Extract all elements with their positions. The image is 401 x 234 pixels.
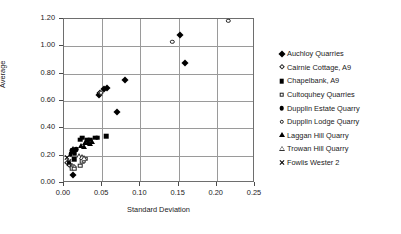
x-tick-mark (216, 182, 217, 186)
legend-item-chapelbank-a9[interactable]: Chapelbank, A9 (276, 74, 398, 88)
y-tick-mark (59, 73, 63, 74)
y-tick-mark (59, 127, 63, 128)
x-tick-mark (254, 182, 255, 186)
gridline-horizontal (64, 101, 253, 102)
x-tick-label: 0.25 (237, 188, 271, 197)
legend-marker-glyph (278, 64, 284, 70)
legend-item-label: Auchloy Quarries (287, 48, 344, 59)
gridline-vertical (217, 19, 218, 181)
legend-marker-glyph (279, 132, 285, 137)
legend-item-trowan-hill-quarry[interactable]: Trowan Hill Quarry (276, 142, 398, 156)
legend-item-cairnie-cottage-a9[interactable]: Cairnie Cottage, A9 (276, 61, 398, 75)
legend-item-label: Dupplin Lodge Quarry (287, 116, 359, 127)
data-point (70, 172, 77, 179)
gridline-vertical (102, 19, 103, 181)
data-point (226, 18, 230, 22)
gridline-horizontal (64, 74, 253, 75)
y-tick-mark (59, 18, 63, 19)
data-point (78, 163, 83, 168)
legend-marker-glyph (279, 92, 284, 97)
legend-item-dupplin-lodge-quarry[interactable]: Dupplin Lodge Quarry (276, 115, 398, 129)
x-tick-label: 0.15 (161, 188, 195, 197)
scatter-chart-figure: Average Standard Deviation Auchloy Quarr… (0, 0, 401, 234)
x-tick-label: 0.00 (46, 188, 80, 197)
legend-item-laggan-hill-quarry[interactable]: Laggan Hill Quarry (276, 129, 398, 143)
plot-area (63, 18, 254, 182)
legend-item-label: Cairnie Cottage, A9 (287, 62, 351, 73)
legend-item-fowlis-wester-2[interactable]: Fowlis Wester 2 (276, 156, 398, 170)
legend-marker-icon (276, 143, 287, 154)
legend-marker-icon (276, 89, 287, 100)
y-tick-label: 1.00 (21, 40, 55, 49)
legend-item-label: Fowlis Wester 2 (287, 157, 339, 168)
legend-marker-icon (276, 130, 287, 141)
legend-marker-icon (276, 48, 287, 59)
legend-item-label: Cultoquhey Quarries (287, 89, 355, 100)
legend-marker-glyph (279, 79, 284, 84)
legend-item-dupplin-estate-quarry[interactable]: Dupplin Estate Quarry (276, 101, 398, 115)
data-point (170, 40, 174, 44)
data-point (182, 59, 189, 66)
data-point (81, 155, 87, 160)
x-tick-label: 0.05 (84, 188, 118, 197)
legend-item-label: Laggan Hill Quarry (287, 130, 349, 141)
x-axis-title: Standard Deviation (63, 205, 254, 214)
data-point (95, 136, 100, 141)
gridline-horizontal (64, 156, 253, 157)
legend-marker-icon (276, 62, 287, 73)
x-tick-label: 0.10 (122, 188, 156, 197)
y-axis-title: Average (0, 61, 7, 88)
legend-item-label: Trowan Hill Quarry (287, 143, 348, 154)
legend-marker-glyph (279, 120, 283, 124)
y-tick-label: 0.60 (21, 95, 55, 104)
legend-marker-icon (276, 116, 287, 127)
gridline-horizontal (64, 46, 253, 47)
x-tick-mark (63, 182, 64, 186)
data-point (114, 108, 121, 115)
data-point (89, 139, 95, 144)
legend-marker-glyph (279, 160, 285, 166)
y-tick-label: 0.40 (21, 122, 55, 131)
y-tick-mark (59, 100, 63, 101)
data-point (66, 160, 72, 166)
y-tick-mark (59, 45, 63, 46)
legend-item-label: Dupplin Estate Quarry (287, 103, 360, 114)
legend-marker-icon (276, 103, 287, 114)
y-tick-label: 0.20 (21, 150, 55, 159)
x-tick-mark (178, 182, 179, 186)
data-point (72, 147, 78, 152)
x-tick-label: 0.20 (199, 188, 233, 197)
gridline-vertical (179, 19, 180, 181)
data-point (72, 166, 77, 171)
legend-marker-glyph (278, 50, 285, 57)
legend-marker-glyph (279, 106, 284, 111)
legend-marker-icon (276, 75, 287, 86)
y-tick-label: 1.20 (21, 13, 55, 22)
legend-marker-glyph (279, 146, 285, 151)
legend-item-cultoquhey-quarries[interactable]: Cultoquhey Quarries (276, 88, 398, 102)
legend-item-auchloy-quarries[interactable]: Auchloy Quarries (276, 47, 398, 61)
gridline-horizontal (64, 128, 253, 129)
legend-marker-icon (276, 157, 287, 168)
data-point (104, 134, 109, 139)
y-tick-label: 0.80 (21, 68, 55, 77)
x-tick-mark (101, 182, 102, 186)
legend: Auchloy QuarriesCairnie Cottage, A9Chape… (276, 47, 398, 169)
y-tick-mark (59, 155, 63, 156)
legend-item-label: Chapelbank, A9 (287, 75, 339, 86)
data-point (122, 77, 129, 84)
y-tick-label: 0.00 (21, 177, 55, 186)
gridline-vertical (140, 19, 141, 181)
x-tick-mark (139, 182, 140, 186)
